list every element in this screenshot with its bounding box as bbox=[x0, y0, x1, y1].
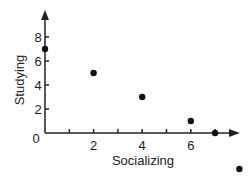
x-tick-label: 2 bbox=[90, 138, 97, 153]
y-tick-label: 0 bbox=[32, 131, 39, 146]
x-axis-label: Socializing bbox=[112, 153, 174, 168]
data-point bbox=[212, 130, 218, 136]
data-point bbox=[188, 118, 194, 124]
data-point bbox=[236, 166, 242, 172]
y-tick-label: 6 bbox=[34, 54, 41, 69]
data-point bbox=[42, 46, 48, 52]
y-axis-label: Studying bbox=[12, 55, 27, 106]
data-point bbox=[90, 70, 96, 76]
x-tick-label: 4 bbox=[139, 138, 146, 153]
ticks: 24602468 bbox=[32, 30, 215, 153]
y-axis-arrow-icon bbox=[41, 10, 49, 20]
y-tick-label: 4 bbox=[34, 78, 41, 93]
scatter-plot: 24602468 Socializing Studying bbox=[0, 0, 252, 182]
data-point bbox=[139, 94, 145, 100]
x-tick-label: 6 bbox=[187, 138, 194, 153]
y-tick-label: 2 bbox=[34, 102, 41, 117]
x-axis-arrow-icon bbox=[229, 129, 240, 137]
y-axis bbox=[41, 10, 49, 133]
y-tick-label: 8 bbox=[34, 30, 41, 45]
